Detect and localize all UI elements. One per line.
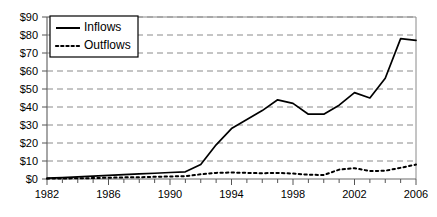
x-tick-label-2002: 2002: [342, 188, 366, 200]
y-tick-label-60: $60: [20, 65, 38, 77]
x-tick-label-1982: 1982: [35, 188, 59, 200]
data-series: [47, 39, 416, 179]
line-chart: $90$80$70$60$50$40$30$20$10$0 1982198619…: [0, 0, 437, 217]
x-tick-marks: [47, 179, 416, 185]
chart-legend: InflowsOutflows: [50, 16, 138, 57]
y-tick-label-40: $40: [20, 101, 38, 113]
chart-container: $90$80$70$60$50$40$30$20$10$0 1982198619…: [0, 0, 437, 217]
y-tick-label-90: $90: [20, 11, 38, 23]
legend-label-outflows: Outflows: [84, 38, 131, 52]
x-tick-label-1990: 1990: [158, 188, 182, 200]
y-tick-label-70: $70: [20, 47, 38, 59]
legend-label-inflows: Inflows: [84, 20, 121, 34]
x-tick-label-1998: 1998: [281, 188, 305, 200]
y-tick-label-20: $20: [20, 137, 38, 149]
x-axis-tick-labels: 1982198619901994199820022006: [35, 188, 428, 200]
y-tick-label-0: $0: [26, 173, 38, 185]
y-tick-label-80: $80: [20, 29, 38, 41]
x-tick-label-1986: 1986: [96, 188, 120, 200]
y-tick-label-50: $50: [20, 83, 38, 95]
y-tick-label-10: $10: [20, 155, 38, 167]
x-tick-label-1994: 1994: [219, 188, 243, 200]
series-line-inflows: [47, 39, 416, 179]
y-tick-label-30: $30: [20, 119, 38, 131]
y-axis-tick-labels: $90$80$70$60$50$40$30$20$10$0: [20, 11, 38, 185]
x-tick-label-2006: 2006: [404, 188, 428, 200]
